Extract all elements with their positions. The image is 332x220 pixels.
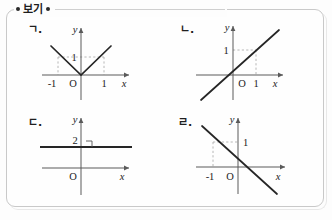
panel-b: ㄴ. 1 1 O x <box>180 18 310 103</box>
panel-a: ㄱ. -1 1 1 <box>28 18 158 103</box>
panel-d-y-axis-label: y <box>229 114 235 125</box>
panel-c-y-arrow-icon <box>79 118 84 123</box>
panel-c-ytick-2: 2 <box>72 135 77 146</box>
panel-a-x-arrow-icon <box>124 73 129 78</box>
examples-header: 보기 <box>14 1 227 17</box>
examples-header-label: 보기 <box>23 4 43 15</box>
panel-d-ytick-1: 1 <box>243 137 248 148</box>
panel-a-ytick-1: 1 <box>71 52 76 63</box>
panel-d-origin-label: O <box>226 171 234 182</box>
panel-c-y-axis-label: y <box>72 114 78 125</box>
panel-d-x-arrow-icon <box>280 165 285 170</box>
panel-a-xtick-1: 1 <box>101 78 106 89</box>
panel-d-x-axis-label: x <box>275 171 281 182</box>
bullet-dot-icon <box>16 7 20 11</box>
panel-d: ㄹ. 1 -1 O x <box>178 110 313 198</box>
panel-b-graph: 1 1 O x y <box>184 18 310 103</box>
bullet-dot-icon <box>46 7 50 11</box>
panel-d-graph: 1 -1 O x y <box>182 110 313 198</box>
panel-a-graph: -1 1 1 O x y <box>32 18 158 103</box>
panel-b-xtick-1: 1 <box>253 78 258 89</box>
panel-b-x-arrow-icon <box>278 73 283 78</box>
panel-c: ㄷ. 2 O x y <box>28 110 158 198</box>
panel-a-x-axis-label: x <box>121 78 127 89</box>
panel-b-origin-label: O <box>238 78 246 89</box>
panel-c-axes <box>42 118 129 195</box>
panel-a-y-arrow-icon <box>79 28 84 33</box>
panel-a-origin-label: O <box>69 78 77 89</box>
panel-b-y-arrow-icon <box>231 26 236 31</box>
panel-c-graph: 2 O x y <box>32 110 158 198</box>
panel-b-y-axis-label: y <box>224 22 230 33</box>
panel-b-curve <box>201 30 279 100</box>
panel-c-origin-label: O <box>69 171 77 182</box>
panel-d-axes <box>196 118 285 194</box>
panel-d-xtick-neg1: -1 <box>206 171 215 182</box>
panel-b-x-axis-label: x <box>272 78 278 89</box>
panel-c-x-arrow-icon <box>124 166 129 171</box>
panel-a-y-axis-label: y <box>72 24 78 35</box>
panel-c-x-axis-label: x <box>119 171 125 182</box>
panel-b-ytick-1: 1 <box>223 45 228 56</box>
panel-d-y-arrow-icon <box>236 118 241 123</box>
panel-a-axes <box>42 28 129 100</box>
header-rule <box>55 9 225 10</box>
worksheet-figure-panel: 보기 ㄱ. <box>0 0 332 220</box>
panel-a-xtick-neg1: -1 <box>48 78 57 89</box>
